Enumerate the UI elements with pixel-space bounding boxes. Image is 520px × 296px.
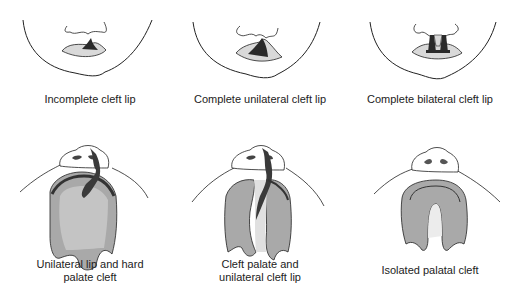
caption-complete-bilateral-cleft-lip: Complete bilateral cleft lip [340,93,520,106]
panel-unilateral-lip-hard-palate-cleft: Unilateral lip and hard palate cleft [0,140,180,296]
panel-incomplete-cleft-lip: Incomplete cleft lip [0,0,180,110]
caption-cleft-palate-unilateral-cleft-lip: Cleft palate and unilateral cleft lip [170,258,350,284]
caption-isolated-palatal-cleft: Isolated palatal cleft [340,264,520,277]
caption-incomplete-cleft-lip: Incomplete cleft lip [0,93,180,106]
panel-complete-bilateral-cleft-lip: Complete bilateral cleft lip [340,0,520,110]
panel-cleft-palate-unilateral-cleft-lip: Cleft palate and unilateral cleft lip [170,140,350,296]
caption-unilateral-lip-hard-palate-cleft: Unilateral lip and hard palate cleft [0,258,180,284]
caption-complete-unilateral-cleft-lip: Complete unilateral cleft lip [170,93,350,106]
panel-isolated-palatal-cleft: Isolated palatal cleft [340,140,520,296]
panel-complete-unilateral-cleft-lip: Complete unilateral cleft lip [170,0,350,110]
